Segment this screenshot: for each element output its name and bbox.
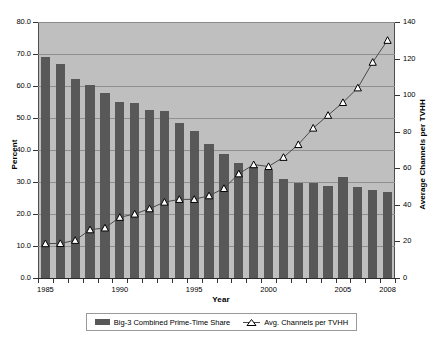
y-tick-label-right: 120 xyxy=(403,54,433,63)
y-tick-label-left: 20.0 xyxy=(0,209,31,218)
y-tick-label-right: 140 xyxy=(403,17,433,26)
x-tick-label: 1990 xyxy=(100,285,140,294)
bar xyxy=(145,110,154,278)
y-tick-label-right: 60 xyxy=(403,163,433,172)
bar xyxy=(368,190,377,278)
bar xyxy=(41,57,50,278)
y-tick-right xyxy=(395,205,400,206)
bar xyxy=(353,187,362,278)
bar xyxy=(175,123,184,278)
bar xyxy=(264,170,273,278)
bar xyxy=(294,183,303,278)
x-tick xyxy=(395,278,396,283)
legend-entry-bars: Big-3 Combined Prime-Time Share xyxy=(95,318,230,327)
y-tick-label-left: 30.0 xyxy=(0,177,31,186)
gridline xyxy=(38,54,395,55)
legend-entry-line: Avg. Channels per TVHH xyxy=(243,318,348,327)
legend-label-bars: Big-3 Combined Prime-Time Share xyxy=(114,318,230,327)
bar xyxy=(56,64,65,278)
bar xyxy=(338,177,347,278)
y-tick-right xyxy=(395,132,400,133)
y-tick-left xyxy=(33,182,38,183)
bar xyxy=(190,131,199,278)
chart-container: Percent Average Channels per TVHH Year 0… xyxy=(0,0,442,345)
bar xyxy=(383,192,392,278)
y-tick-label-left: 50.0 xyxy=(0,113,31,122)
y-tick-right xyxy=(395,168,400,169)
y-tick-right xyxy=(395,22,400,23)
y-tick-left xyxy=(33,150,38,151)
y-tick-label-left: 80.0 xyxy=(0,17,31,26)
y-tick-left xyxy=(33,246,38,247)
y-tick-left xyxy=(33,118,38,119)
x-axis-line xyxy=(38,278,395,279)
x-tick-label: 1995 xyxy=(174,285,214,294)
bar xyxy=(309,183,318,278)
x-axis-title: Year xyxy=(0,295,442,304)
x-tick-label: 2008 xyxy=(368,285,408,294)
triangle-marker-icon xyxy=(246,318,257,327)
bar xyxy=(160,111,169,278)
y-axis-title-left: Percent xyxy=(10,125,19,185)
y-tick-label-left: 40.0 xyxy=(0,145,31,154)
y-tick-right xyxy=(395,59,400,60)
y-tick-label-left: 70.0 xyxy=(0,49,31,58)
bar xyxy=(204,144,213,278)
bar xyxy=(115,102,124,278)
x-tick-label: 1985 xyxy=(25,285,65,294)
y-tick-label-left: 0.0 xyxy=(0,273,31,282)
chart-legend: Big-3 Combined Prime-Time Share Avg. Cha… xyxy=(86,313,357,331)
bar xyxy=(279,179,288,278)
legend-label-line: Avg. Channels per TVHH xyxy=(264,318,348,327)
x-tick-label: 2005 xyxy=(323,285,363,294)
y-tick-label-right: 40 xyxy=(403,200,433,209)
y-tick-left xyxy=(33,54,38,55)
legend-bar-swatch-icon xyxy=(95,319,110,325)
bar xyxy=(219,154,228,278)
bar xyxy=(85,85,94,278)
y-tick-label-right: 20 xyxy=(403,236,433,245)
bar xyxy=(71,79,80,278)
y-tick-label-right: 0 xyxy=(403,273,433,282)
y-tick-label-left: 10.0 xyxy=(0,241,31,250)
bar xyxy=(100,93,109,278)
plot-top-border xyxy=(38,22,395,23)
y-tick-label-right: 80 xyxy=(403,127,433,136)
bar xyxy=(130,103,139,278)
y-tick-left xyxy=(33,86,38,87)
bar xyxy=(249,167,258,278)
y-tick-right xyxy=(395,95,400,96)
y-tick-left xyxy=(33,214,38,215)
x-tick-label: 2000 xyxy=(249,285,289,294)
y-tick-label-left: 60.0 xyxy=(0,81,31,90)
y-tick-left xyxy=(33,22,38,23)
bar xyxy=(323,186,332,278)
legend-line-swatch-icon xyxy=(243,318,260,327)
y-tick-right xyxy=(395,241,400,242)
y-tick-label-right: 100 xyxy=(403,90,433,99)
bar xyxy=(234,163,243,278)
